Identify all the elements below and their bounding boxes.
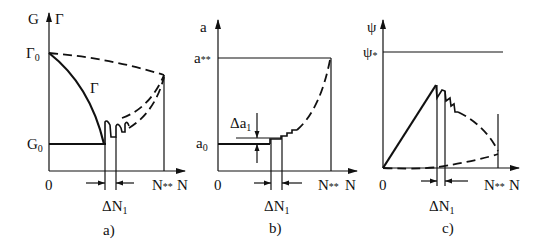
tick-n-star: N** (152, 177, 173, 193)
panel-b: a a** a0 Δa1 0 N** N ΔN1 b) (194, 19, 357, 237)
delta-n1-label: ΔN1 (264, 198, 289, 216)
tick-psi-star: ψ* (363, 44, 377, 61)
origin-label: 0 (379, 177, 387, 193)
tick-a0: a0 (196, 135, 208, 153)
a-dashed-growth (297, 60, 330, 130)
panel-a: G Γ Γ0 G0 Γ 0 N** N ΔN1 a) (26, 11, 188, 239)
x-label-n: N (177, 177, 188, 193)
panel-c: ψ ψ* 0 N** N ΔN1 c) (363, 19, 520, 237)
gamma-dashed-upper (49, 53, 164, 75)
psi-dashed-descending (458, 112, 498, 151)
psi-rising-line (383, 85, 436, 168)
tick-gamma0: Γ0 (26, 45, 40, 63)
y-label-a: a (200, 19, 207, 35)
x-label-n: N (509, 177, 520, 193)
g-sawtooth (105, 121, 129, 144)
delta-a1-label: Δa1 (230, 115, 251, 133)
tick-g0: G0 (27, 136, 43, 154)
origin-label: 0 (45, 177, 53, 193)
caption-a: a) (103, 222, 115, 239)
tick-n-star: N** (484, 177, 505, 193)
psi-dashed-lower (383, 154, 498, 169)
figure: G Γ Γ0 G0 Γ 0 N** N ΔN1 a) a a** a0 (0, 0, 550, 245)
a-steps (270, 130, 297, 144)
x-label-n: N (345, 177, 356, 193)
tick-n-star: N** (318, 177, 339, 193)
delta-n1-label: ΔN1 (429, 198, 454, 216)
y-label-g: G (28, 11, 39, 27)
delta-n1-label: ΔN1 (102, 198, 127, 216)
gamma-curve (49, 53, 104, 144)
y-label-gamma: Γ (55, 11, 64, 27)
caption-b: b) (269, 220, 282, 237)
tick-a-star: a** (194, 50, 211, 66)
y-label-psi: ψ (367, 19, 377, 35)
origin-label: 0 (214, 177, 222, 193)
curve-label-gamma: Γ (90, 80, 99, 96)
caption-c: c) (442, 220, 454, 237)
psi-sawtooth (436, 85, 458, 112)
